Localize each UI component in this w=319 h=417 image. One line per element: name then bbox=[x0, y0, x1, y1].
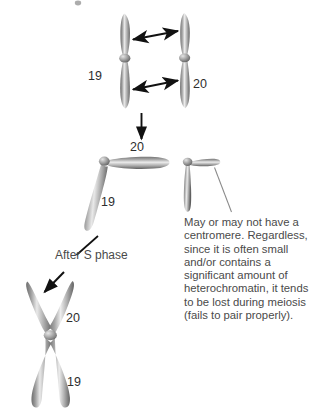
diagram-artwork bbox=[0, 0, 319, 417]
chromosome-20-top bbox=[179, 13, 190, 108]
after-s-phase-arrow bbox=[45, 272, 65, 292]
label-chromosome-20-top: 20 bbox=[193, 78, 207, 91]
small-chromosome-fragment bbox=[183, 158, 221, 212]
label-chromosome-19-middle: 19 bbox=[101, 196, 115, 209]
note-leader-line bbox=[215, 168, 232, 213]
double-headed-arrow-upper-arm bbox=[133, 31, 178, 40]
homology-arrows-top bbox=[133, 31, 178, 90]
chromosome-19-top bbox=[119, 14, 130, 109]
label-chromosome-19-bottom: 19 bbox=[67, 376, 81, 389]
chromosome-diagram-figure: 19 20 20 19 After S phase 20 19 May or m… bbox=[0, 0, 319, 417]
label-after-s-phase: After S phase bbox=[55, 249, 128, 261]
label-chromosome-20-middle: 20 bbox=[130, 141, 144, 154]
derivative-chromosome-middle bbox=[84, 157, 169, 231]
double-headed-arrow-lower-arm bbox=[133, 81, 178, 90]
label-chromosome-20-bottom: 20 bbox=[66, 312, 80, 325]
fragment-explanatory-note: May or may not have a centromere. Regard… bbox=[184, 216, 316, 322]
label-chromosome-19-top: 19 bbox=[88, 70, 102, 83]
stray-speck bbox=[75, 1, 81, 6]
